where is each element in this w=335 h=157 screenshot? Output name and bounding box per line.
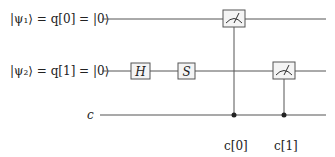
s-gate: S (178, 63, 195, 79)
svg-text:H: H (134, 65, 146, 79)
svg-text:S: S (182, 65, 190, 79)
classical-dot-0 (232, 113, 237, 118)
bit-label-c0: c[0] (224, 139, 248, 153)
classical-dot-1 (282, 113, 287, 118)
measurement-gate-q1 (273, 62, 295, 79)
bit-label-c1: c[1] (274, 139, 298, 153)
measurement-gate-q0 (223, 10, 245, 27)
h-gate: H (131, 63, 150, 79)
circuit-diagram: H S (0, 0, 335, 157)
